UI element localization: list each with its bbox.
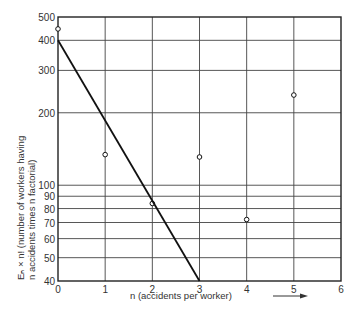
- grid-lines: [58, 17, 341, 281]
- data-series: [56, 27, 296, 281]
- data-point: [197, 155, 202, 160]
- x-tick-label: 5: [291, 284, 297, 295]
- x-tick-label: 4: [244, 284, 250, 295]
- y-tick-labels: 405060708090100200300400500: [38, 12, 55, 287]
- y-tick-label: 50: [44, 253, 56, 264]
- data-point: [292, 93, 297, 98]
- y-axis-label-line2: n accidents times n factorial): [26, 160, 37, 280]
- x-tick-label: 1: [102, 284, 108, 295]
- y-tick-label: 100: [38, 180, 55, 191]
- chart: 405060708090100200300400500 0123456 Eₙ ×…: [0, 0, 353, 312]
- y-tick-label: 90: [44, 191, 56, 202]
- fitted-line: [58, 40, 200, 281]
- x-axis-label: n (accidents per worker): [130, 290, 232, 301]
- y-tick-label: 80: [44, 204, 56, 215]
- data-point: [56, 27, 61, 32]
- y-tick-label: 500: [38, 12, 55, 23]
- y-tick-label: 200: [38, 108, 55, 119]
- y-tick-label: 60: [44, 234, 56, 245]
- y-tick-label: 300: [38, 65, 55, 76]
- y-tick-label: 400: [38, 35, 55, 46]
- x-tick-label: 0: [55, 284, 61, 295]
- y-axis-label-line1: Eₙ × n! (number of workers having: [15, 136, 26, 280]
- data-point: [244, 217, 249, 222]
- x-tick-label: 6: [338, 284, 344, 295]
- data-point: [103, 152, 108, 157]
- y-tick-label: 70: [44, 218, 56, 229]
- y-tick-label: 40: [44, 276, 56, 287]
- y-axis-label: Eₙ × n! (number of workers having n acci…: [15, 136, 37, 280]
